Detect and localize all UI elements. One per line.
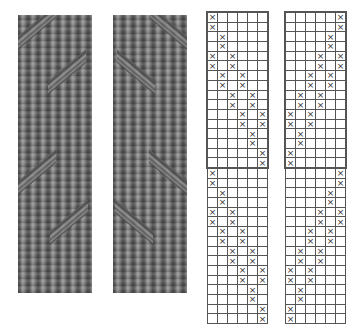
chart-cell — [208, 90, 218, 100]
chart-cell: × — [316, 207, 326, 217]
chart-row: ×× — [286, 80, 346, 90]
purl-x-icon: × — [258, 149, 267, 157]
chart-cell — [218, 148, 228, 158]
purl-x-icon: × — [218, 198, 227, 206]
chart-cell — [296, 178, 306, 188]
chart-cell — [316, 275, 326, 285]
chart-cell: × — [286, 148, 296, 158]
chart-cell: × — [336, 61, 346, 71]
chart-cell — [258, 80, 268, 90]
chart-cell: × — [218, 198, 228, 208]
chart-cell: × — [238, 109, 248, 119]
chart-cell: × — [238, 80, 248, 90]
purl-x-icon: × — [306, 237, 315, 245]
chart-cell — [238, 158, 248, 168]
chart-cell — [228, 178, 238, 188]
chart-cell: × — [238, 236, 248, 246]
chart-cell — [336, 100, 346, 110]
chart-cell — [208, 138, 218, 148]
chart-cell — [208, 304, 218, 314]
chart-cell — [286, 22, 296, 32]
chart-cell — [306, 285, 316, 295]
chart-cell — [238, 207, 248, 217]
purl-x-icon: × — [296, 247, 305, 255]
purl-x-icon: × — [306, 110, 315, 118]
chart-cell — [336, 158, 346, 168]
chart-cell — [248, 314, 258, 324]
chart-cell — [218, 207, 228, 217]
chart-cell — [208, 188, 218, 198]
chart-cell — [326, 129, 336, 139]
purl-x-icon: × — [326, 227, 335, 235]
chart-cell — [306, 304, 316, 314]
chart-cell — [228, 236, 238, 246]
chart-cell — [208, 129, 218, 139]
chart-row: × — [286, 42, 346, 52]
chart-cell — [258, 138, 268, 148]
chart-cell: × — [228, 61, 238, 71]
chart-cell — [218, 61, 228, 71]
chart-cell — [316, 22, 326, 32]
chart-cell — [258, 217, 268, 227]
chart-row: ×× — [286, 71, 346, 81]
purl-x-icon: × — [208, 13, 217, 21]
chart-cell — [306, 90, 316, 100]
chart-cell — [208, 265, 218, 275]
chart-cell — [258, 246, 268, 256]
chart-cell: × — [336, 178, 346, 188]
chart-cell — [208, 314, 218, 324]
chart-row: × — [208, 138, 268, 148]
chart-cell — [228, 188, 238, 198]
purl-x-icon: × — [208, 218, 217, 226]
chart-cell — [286, 188, 296, 198]
purl-x-icon: × — [306, 276, 315, 284]
chart-cell — [238, 90, 248, 100]
purl-x-icon: × — [316, 52, 325, 60]
chart-cell: × — [306, 71, 316, 81]
chart-cell — [306, 42, 316, 52]
chart-cell — [208, 109, 218, 119]
knitting-chart-right: ××××××××××××××××××××××××××××××××××××××××… — [285, 12, 346, 324]
chart-row: ×× — [208, 236, 268, 246]
chart-cell — [306, 138, 316, 148]
chart-row: × — [208, 148, 268, 158]
chart-cell — [228, 138, 238, 148]
chart-cell — [296, 61, 306, 71]
chart-cell — [258, 100, 268, 110]
chart-cell: × — [296, 256, 306, 266]
purl-x-icon: × — [296, 91, 305, 99]
purl-x-icon: × — [316, 101, 325, 109]
chart-cell — [336, 109, 346, 119]
purl-x-icon: × — [336, 208, 345, 216]
chart-cell — [238, 42, 248, 52]
purl-x-icon: × — [326, 237, 335, 245]
chart-cell: × — [258, 119, 268, 129]
chart-cell — [218, 13, 228, 23]
chart-cell — [296, 148, 306, 158]
chart-cell — [258, 207, 268, 217]
chart-cell — [316, 71, 326, 81]
chart-cell — [316, 32, 326, 42]
chart-cell — [286, 13, 296, 23]
chart-cell — [238, 188, 248, 198]
chart-cell: × — [258, 275, 268, 285]
chart-row: × — [286, 294, 346, 304]
chart-cell — [296, 22, 306, 32]
purl-x-icon: × — [238, 120, 247, 128]
chart-cell — [306, 217, 316, 227]
chart-cell — [208, 42, 218, 52]
chart-cell — [286, 90, 296, 100]
purl-x-icon: × — [296, 295, 305, 303]
chart-cell: × — [306, 275, 316, 285]
chart-cell — [228, 265, 238, 275]
purl-x-icon: × — [296, 139, 305, 147]
purl-x-icon: × — [326, 42, 335, 50]
purl-x-icon: × — [228, 257, 237, 265]
chart-cell: × — [218, 71, 228, 81]
chart-cell — [326, 138, 336, 148]
chart-cell — [296, 217, 306, 227]
chart-cell: × — [336, 217, 346, 227]
chart-cell — [316, 42, 326, 52]
chart-cell — [296, 109, 306, 119]
purl-x-icon: × — [238, 276, 247, 284]
